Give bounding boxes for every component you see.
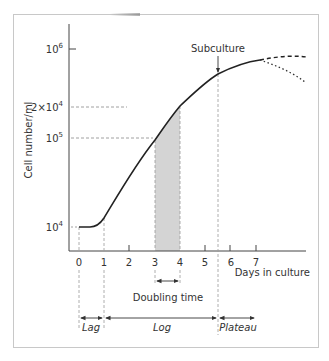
x-axis-label: Days in culture — [235, 267, 310, 278]
y-tick-1e4: 104 — [46, 220, 64, 233]
x-tick-2: 2 — [126, 257, 132, 268]
phase-log-label: Log — [153, 322, 171, 333]
doubling-time-label: Doubling time — [133, 292, 204, 303]
y-tick-1e6: 106 — [46, 42, 64, 55]
phase-plateau-label: Plateau — [219, 322, 256, 333]
subculture-label: Subculture — [191, 43, 245, 54]
y-axis-label: Cell number/ml — [23, 102, 34, 179]
decline-dotted-line — [260, 60, 305, 82]
x-tick-3: 3 — [152, 257, 158, 268]
x-tick-6: 6 — [228, 257, 234, 268]
x-ticks — [129, 245, 256, 251]
x-tick-4: 4 — [177, 257, 183, 268]
x-tick-5: 5 — [202, 257, 208, 268]
x-tick-1: 1 — [101, 257, 107, 268]
phase-lag-label: Lag — [82, 322, 100, 333]
y-tick-1e5: 105 — [46, 131, 63, 144]
plateau-dashed-line — [260, 56, 307, 60]
x-tick-0: 0 — [76, 257, 82, 268]
growth-curve-chart: 106 2×104 105 104 Cell number/ml 0 1 2 3… — [0, 0, 329, 361]
doubling-time-shaded-region — [155, 106, 180, 251]
y-tick-2x: 2×104 — [31, 100, 63, 113]
